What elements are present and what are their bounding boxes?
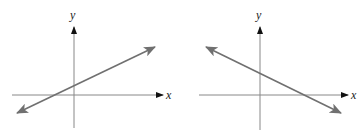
y-axis-label: y xyxy=(255,8,262,22)
negative-slope-line xyxy=(206,47,341,113)
diagram-canvas: x y x y xyxy=(0,0,364,137)
x-axis-label: x xyxy=(165,88,172,102)
x-axis-label: x xyxy=(350,88,357,102)
graph-positive-slope: x y xyxy=(12,8,172,128)
graph-negative-slope: x y xyxy=(199,8,357,130)
y-axis-label: y xyxy=(69,8,76,22)
positive-slope-line xyxy=(17,47,155,113)
